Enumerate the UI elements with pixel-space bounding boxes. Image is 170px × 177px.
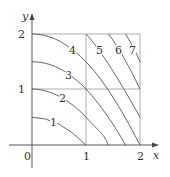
curve-label-2: 2	[59, 92, 66, 105]
origin-label: 0	[24, 150, 31, 163]
curve-label-4: 4	[69, 44, 76, 57]
y-axis-label: y	[21, 10, 29, 23]
curve-label-1: 1	[50, 116, 57, 129]
axes	[9, 18, 155, 168]
contour-plot: 1 2 3 4 5 6 7 0 1 2 x 1 2 y	[0, 0, 170, 177]
curve-label-5: 5	[96, 44, 103, 57]
contour-level-3	[32, 62, 126, 145]
contour-level-6	[108, 34, 140, 89]
x-tick-2: 2	[137, 150, 144, 163]
x-axis-label: x	[153, 149, 160, 162]
contour-level-1	[32, 117, 86, 145]
curve-label-3: 3	[65, 69, 72, 82]
curve-label-6: 6	[115, 44, 122, 57]
contour-level-2	[32, 89, 108, 145]
y-axis-arrow-icon	[30, 13, 35, 20]
curve-label-7: 7	[129, 44, 136, 57]
y-tick-2: 2	[18, 28, 25, 41]
y-tick-1: 1	[18, 83, 25, 96]
x-axis-arrow-icon	[152, 143, 159, 148]
x-tick-1: 1	[83, 150, 90, 163]
